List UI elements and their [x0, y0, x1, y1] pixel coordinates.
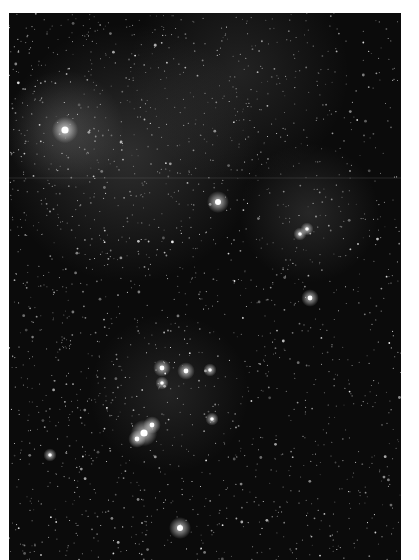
sky-canvas: [9, 13, 401, 560]
nebula-glow-layer: [9, 13, 379, 473]
star-field-image: [9, 13, 401, 560]
